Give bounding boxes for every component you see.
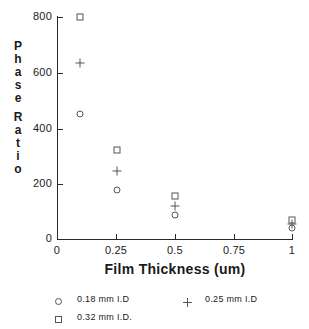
x-tick-075 (234, 234, 235, 239)
legend: 0.18 mm I.D 0.25 mm I.D 0.32 mm I.D. (0, 292, 309, 328)
y-axis-line (57, 16, 58, 240)
data-point-circle (289, 225, 296, 232)
x-tick-label-0: 0 (54, 245, 60, 256)
legend-label-018: 0.18 mm I.D (77, 294, 129, 304)
y-tick-400 (58, 129, 63, 130)
x-tick-05 (175, 234, 176, 239)
x-axis-line (57, 239, 293, 240)
data-point-circle (172, 212, 179, 219)
legend-label-025: 0.25 mm I.D (205, 294, 257, 304)
y-axis-title-char-e: e (10, 92, 26, 105)
y-axis-title: P h a s e R a t i o (10, 40, 26, 176)
x-tick-025 (116, 234, 117, 239)
y-tick-200 (58, 184, 63, 185)
scatter-chart-figure: 800 600 400 200 0 0 0.25 0.5 0.75 1 Film… (0, 0, 309, 329)
circle-marker-icon (55, 298, 62, 305)
data-point-plus (171, 202, 180, 211)
x-axis-title: Film Thickness (um) (57, 261, 293, 277)
x-tick-label-1: 1 (289, 245, 295, 256)
legend-label-032: 0.32 mm I.D. (77, 312, 132, 322)
data-point-plus (113, 167, 122, 176)
y-tick-label-800: 800 (18, 11, 52, 22)
x-tick-label-05: 0.5 (167, 245, 183, 256)
plus-marker-icon (183, 298, 192, 307)
x-tick-0 (57, 234, 58, 239)
x-tick-label-025: 0.25 (105, 245, 127, 256)
x-tick-1 (292, 234, 293, 239)
data-point-circle (77, 111, 84, 118)
data-point-plus (76, 59, 85, 68)
y-tick-label-200: 200 (18, 178, 52, 189)
x-tick-label-075: 0.75 (223, 245, 245, 256)
data-point-square (77, 14, 84, 21)
y-axis-title-char-o: o (10, 163, 26, 176)
data-point-square (172, 193, 179, 200)
y-tick-0 (58, 239, 63, 240)
data-point-square (114, 147, 121, 154)
y-tick-label-0: 0 (18, 233, 52, 244)
data-point-circle (114, 187, 121, 194)
y-tick-600 (58, 73, 63, 74)
square-marker-icon (55, 316, 62, 323)
y-tick-800 (58, 17, 63, 18)
